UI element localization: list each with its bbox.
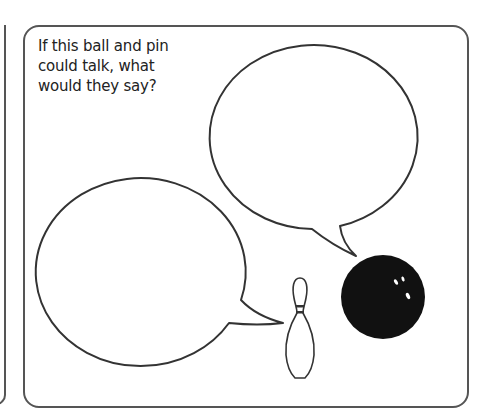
speech-bubble-ball[interactable] bbox=[210, 45, 418, 256]
bowling-pin-icon bbox=[286, 278, 314, 378]
bowling-ball-icon bbox=[341, 255, 425, 339]
